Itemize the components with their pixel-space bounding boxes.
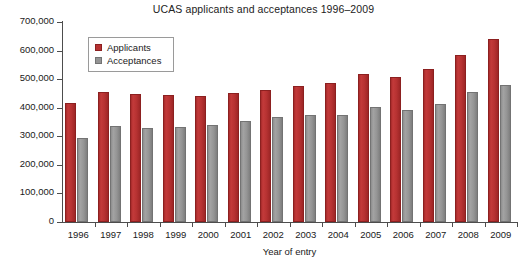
- bar-acceptances-2003: [305, 115, 316, 222]
- x-tick-mark: [517, 222, 518, 227]
- bar-applicants-2002: [260, 90, 271, 222]
- x-tick-mark: [452, 222, 453, 227]
- bar-group-2001: [225, 22, 258, 222]
- bar-acceptances-2008: [467, 92, 478, 222]
- legend-label-acceptances: Acceptances: [107, 55, 161, 66]
- bar-acceptances-2009: [500, 85, 511, 222]
- bar-acceptances-2000: [207, 125, 218, 222]
- chart-title: UCAS applicants and acceptances 1996–200…: [0, 3, 527, 15]
- y-tick-label: 0: [49, 215, 54, 226]
- bar-group-2003: [290, 22, 323, 222]
- bar-acceptances-2006: [402, 110, 413, 222]
- legend-swatch-acceptances-icon: [95, 57, 102, 64]
- y-tick-label: 100,000: [20, 186, 54, 197]
- x-tick-label-2005: 2005: [355, 229, 388, 240]
- legend-label-applicants: Applicants: [107, 42, 151, 53]
- x-tick-label-2008: 2008: [452, 229, 485, 240]
- x-tick-mark: [420, 222, 421, 227]
- bar-applicants-1999: [163, 95, 174, 222]
- bar-acceptances-1999: [175, 127, 186, 222]
- chart-legend: Applicants Acceptances: [88, 37, 174, 72]
- x-tick-label-2001: 2001: [225, 229, 258, 240]
- bar-acceptances-2004: [337, 115, 348, 222]
- bar-applicants-1997: [98, 92, 109, 222]
- x-tick-label-1998: 1998: [127, 229, 160, 240]
- x-tick-label-1999: 1999: [160, 229, 193, 240]
- x-tick-label-1996: 1996: [62, 229, 95, 240]
- legend-item-acceptances: Acceptances: [95, 54, 168, 67]
- x-tick-mark: [95, 222, 96, 227]
- bar-group-2000: [192, 22, 225, 222]
- bar-group-2002: [257, 22, 290, 222]
- legend-item-applicants: Applicants: [95, 41, 168, 54]
- x-tick-label-2009: 2009: [485, 229, 518, 240]
- x-tick-label-2006: 2006: [387, 229, 420, 240]
- x-tick-mark: [192, 222, 193, 227]
- bar-applicants-2001: [228, 93, 239, 222]
- bar-applicants-1996: [65, 103, 76, 222]
- bar-acceptances-1996: [77, 138, 88, 222]
- x-tick-label-2000: 2000: [192, 229, 225, 240]
- x-axis-title: Year of entry: [62, 246, 517, 257]
- legend-swatch-applicants-icon: [95, 44, 102, 51]
- bar-group-2008: [452, 22, 485, 222]
- x-tick-mark: [290, 222, 291, 227]
- chart-container: UCAS applicants and acceptances 1996–200…: [0, 0, 527, 275]
- bar-applicants-2004: [325, 83, 336, 222]
- x-tick-mark: [225, 222, 226, 227]
- bar-group-2005: [355, 22, 388, 222]
- bar-acceptances-1997: [110, 126, 121, 222]
- x-tick-label-2007: 2007: [420, 229, 453, 240]
- bar-acceptances-1998: [142, 128, 153, 222]
- bar-acceptances-2007: [435, 104, 446, 222]
- bar-applicants-1998: [130, 94, 141, 222]
- x-tick-label-1997: 1997: [95, 229, 128, 240]
- y-tick-label: 700,000: [20, 15, 54, 26]
- y-tick-label: 600,000: [20, 44, 54, 55]
- bar-group-2004: [322, 22, 355, 222]
- bar-acceptances-2005: [370, 107, 381, 222]
- x-tick-mark: [257, 222, 258, 227]
- x-tick-mark: [355, 222, 356, 227]
- bar-acceptances-2001: [240, 121, 251, 222]
- bar-group-2007: [420, 22, 453, 222]
- x-tick-mark: [160, 222, 161, 227]
- x-tick-mark: [387, 222, 388, 227]
- x-tick-label-2004: 2004: [322, 229, 355, 240]
- y-tick-label: 500,000: [20, 72, 54, 83]
- x-tick-mark: [322, 222, 323, 227]
- x-tick-label-2002: 2002: [257, 229, 290, 240]
- bar-applicants-2009: [488, 39, 499, 222]
- x-tick-mark: [485, 222, 486, 227]
- bar-applicants-2000: [195, 96, 206, 222]
- x-tick-label-2003: 2003: [290, 229, 323, 240]
- x-tick-mark: [127, 222, 128, 227]
- bar-applicants-2005: [358, 74, 369, 222]
- y-tick-mark: [57, 222, 62, 223]
- y-tick-label: 300,000: [20, 129, 54, 140]
- bar-group-2006: [387, 22, 420, 222]
- y-tick-label: 400,000: [20, 101, 54, 112]
- bar-applicants-2003: [293, 86, 304, 222]
- bar-applicants-2007: [423, 69, 434, 222]
- bar-applicants-2008: [455, 55, 466, 222]
- bar-applicants-2006: [390, 77, 401, 222]
- y-tick-label: 200,000: [20, 158, 54, 169]
- bar-group-2009: [485, 22, 518, 222]
- bar-acceptances-2002: [272, 117, 283, 222]
